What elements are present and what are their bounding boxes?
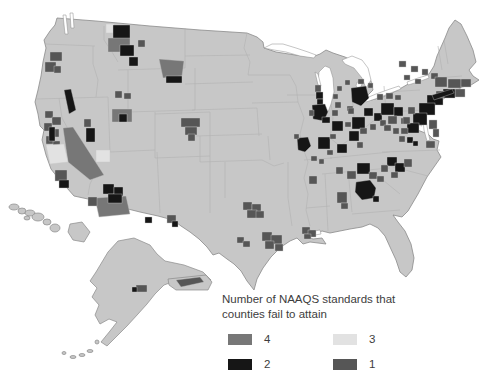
aleutian-island: [95, 340, 99, 344]
hawaiian-island: [9, 204, 19, 210]
legend-item-2: 2: [228, 358, 333, 370]
aleutian-island: [79, 354, 85, 357]
hawaiian-island: [32, 213, 44, 221]
aleutian-island: [62, 352, 66, 355]
legend-label-1: 1: [369, 358, 375, 370]
hawaii: [9, 204, 90, 242]
hawaiian-island: [24, 216, 30, 220]
naaqs-map-figure: Number of NAAQS standards that counties …: [0, 0, 504, 391]
legend-label-4: 4: [264, 333, 270, 345]
alaska-outline: [90, 238, 211, 346]
hawaii-big-island: [68, 222, 90, 242]
legend-label-3: 3: [369, 333, 375, 345]
legend-grid: 4 3 2 1: [228, 333, 462, 370]
hawaiian-island: [43, 219, 51, 225]
legend-title: Number of NAAQS standards that counties …: [222, 292, 422, 321]
aleutian-island: [87, 350, 93, 353]
legend-item-3: 3: [333, 333, 438, 345]
map-legend: Number of NAAQS standards that counties …: [222, 292, 462, 370]
legend-swatch-2: [228, 359, 252, 370]
alaska: [62, 238, 212, 359]
legend-label-2: 2: [264, 358, 270, 370]
hawaiian-island: [50, 224, 60, 232]
legend-swatch-3: [333, 334, 357, 345]
aleutian-island: [70, 356, 76, 359]
legend-swatch-4: [228, 334, 252, 345]
legend-swatch-1: [333, 359, 357, 370]
legend-item-4: 4: [228, 333, 333, 345]
legend-item-1: 1: [333, 358, 438, 370]
